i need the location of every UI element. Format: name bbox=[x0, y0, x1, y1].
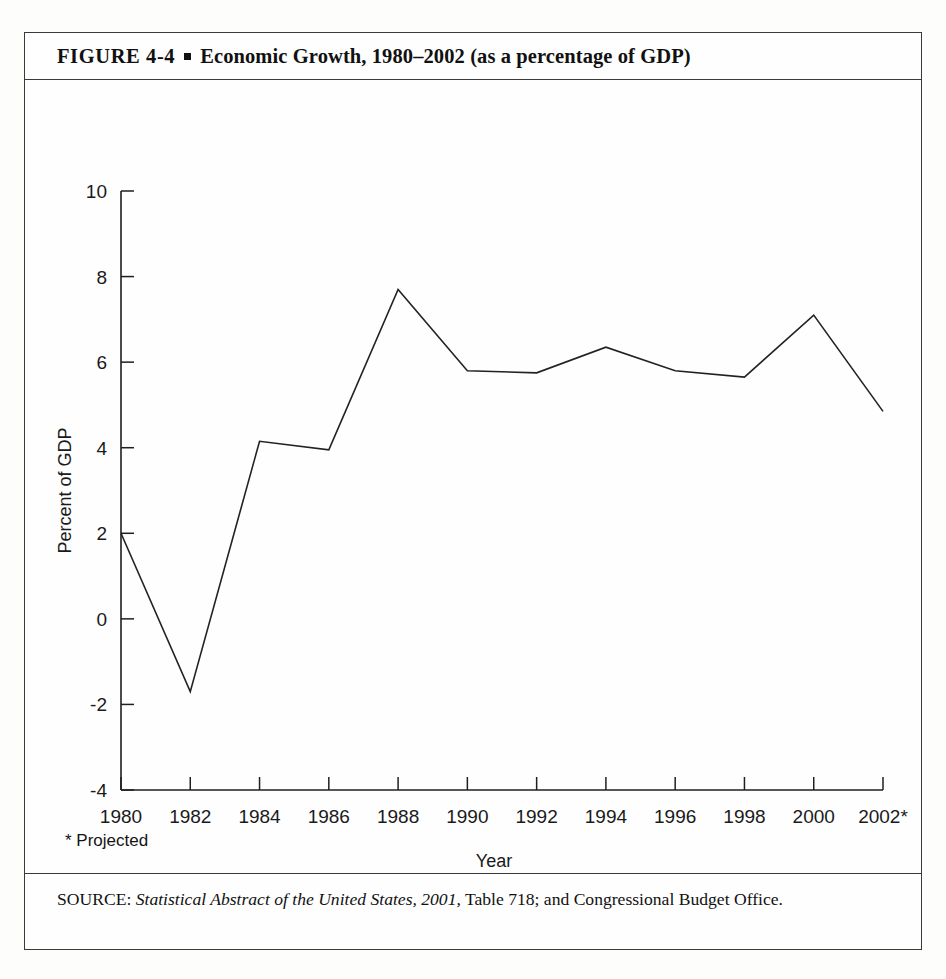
x-axis: 1980198219841986198819901992199419961998… bbox=[100, 777, 909, 827]
y-axis: 1086420-2-4 bbox=[86, 181, 134, 801]
y-tick-label: 8 bbox=[96, 267, 107, 288]
figure-container: FIGURE 4-4Economic Growth, 1980–2002 (as… bbox=[24, 32, 922, 950]
page-title: FIGURE 4-4Economic Growth, 1980–2002 (as… bbox=[25, 45, 691, 68]
x-tick-label: 1998 bbox=[723, 806, 765, 827]
figure-title: Economic Growth, 1980–2002 (as a percent… bbox=[200, 45, 691, 67]
y-tick-label: 10 bbox=[86, 181, 107, 202]
x-tick-label: 1982 bbox=[169, 806, 211, 827]
y-tick-label: -4 bbox=[90, 780, 107, 801]
projected-footnote: * Projected bbox=[65, 831, 148, 851]
x-tick-label: 1990 bbox=[446, 806, 488, 827]
x-tick-label: 1986 bbox=[308, 806, 350, 827]
source-publication: Statistical Abstract of the United State… bbox=[136, 889, 461, 909]
source-prefix: SOURCE: bbox=[57, 889, 131, 909]
y-tick-label: 6 bbox=[96, 352, 107, 373]
x-tick-label: 1984 bbox=[238, 806, 281, 827]
line-chart: 1086420-2-4 1980198219841986198819901992… bbox=[25, 80, 921, 873]
x-tick-label: 1992 bbox=[515, 806, 557, 827]
source-rest: Table 718; and Congressional Budget Offi… bbox=[461, 889, 783, 909]
y-tick-label: 2 bbox=[96, 523, 107, 544]
y-axis-title: Percent of GDP bbox=[55, 427, 75, 553]
x-tick-label: 1996 bbox=[654, 806, 696, 827]
figure-number: FIGURE 4-4 bbox=[57, 45, 175, 67]
source-note: SOURCE: Statistical Abstract of the Unit… bbox=[57, 886, 893, 913]
y-tick-label: -2 bbox=[90, 694, 107, 715]
source-divider bbox=[25, 873, 921, 874]
x-tick-label: 2000 bbox=[793, 806, 835, 827]
y-tick-label: 4 bbox=[96, 438, 107, 459]
x-tick-label: 1988 bbox=[377, 806, 419, 827]
x-tick-label: 2002* bbox=[858, 806, 908, 827]
x-axis-title: Year bbox=[476, 851, 512, 871]
x-tick-label: 1980 bbox=[100, 806, 142, 827]
square-bullet-icon bbox=[184, 53, 191, 60]
x-tick-label: 1994 bbox=[585, 806, 628, 827]
y-tick-label: 0 bbox=[96, 609, 107, 630]
data-series-gdp-growth bbox=[121, 289, 883, 691]
axis-titles: YearPercent of GDP bbox=[55, 427, 512, 871]
figure-title-bar: FIGURE 4-4Economic Growth, 1980–2002 (as… bbox=[25, 33, 921, 80]
chart-plot-area: 1086420-2-4 1980198219841986198819901992… bbox=[25, 80, 921, 873]
